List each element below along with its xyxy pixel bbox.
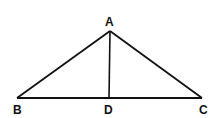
label-d: D	[104, 103, 113, 117]
label-c: C	[199, 103, 208, 117]
label-b: B	[13, 103, 22, 117]
segment-ab	[17, 31, 110, 98]
geometry-diagram: A B D C	[0, 0, 215, 118]
segment-ac	[110, 31, 202, 98]
segment-ad	[109, 31, 110, 98]
label-a: A	[105, 15, 114, 29]
triangle-figure: A B D C	[0, 0, 215, 118]
